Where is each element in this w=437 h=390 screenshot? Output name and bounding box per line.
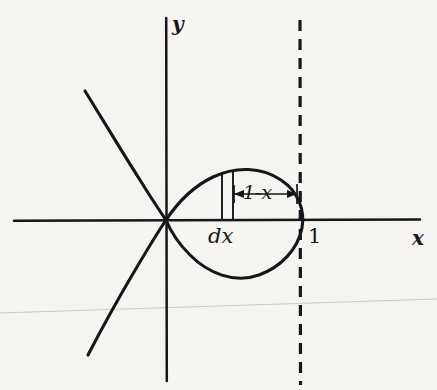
curve-upper-left-branch (85, 91, 166, 220)
scan-artifact-line (0, 299, 437, 313)
x-axis (14, 219, 420, 220)
calculus-figure: y x dx 1 1-x (0, 0, 437, 390)
dx-label: dx (208, 226, 233, 247)
asymptote-value-label: 1 (308, 226, 321, 247)
y-axis (166, 18, 167, 381)
one-minus-x-label: 1-x (243, 183, 272, 202)
x-axis-label: x (412, 228, 424, 248)
y-axis-label: y (172, 14, 184, 34)
curve-lower-left-branch (88, 220, 166, 355)
figure-canvas (0, 0, 437, 390)
